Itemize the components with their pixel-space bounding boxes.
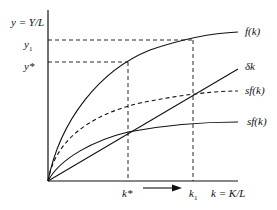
sf-k-dashed-label: sf(k): [245, 84, 265, 97]
sf-k-solid-label: sf(k): [247, 115, 267, 128]
y1-label: y1: [23, 38, 33, 53]
f-k-curve: [48, 32, 238, 181]
sf-k-solid-curve: [48, 122, 238, 181]
delta-k-line: [48, 69, 238, 181]
ystar-label: y*: [23, 60, 35, 72]
x-axis-label: k = K/L: [211, 187, 245, 199]
delta-k-label: δk: [245, 60, 256, 72]
arrowhead-icon: [172, 185, 182, 192]
kstar-label: k*: [122, 187, 133, 199]
solow-diagram: y = Y/L y1 y* k* k1 k = K/L f(k) δk sf(k…: [0, 0, 277, 210]
sf-k-dashed-curve: [48, 91, 238, 181]
k1-label: k1: [189, 187, 198, 202]
y-axis-label: y = Y/L: [10, 16, 44, 28]
f-k-label: f(k): [245, 25, 261, 38]
